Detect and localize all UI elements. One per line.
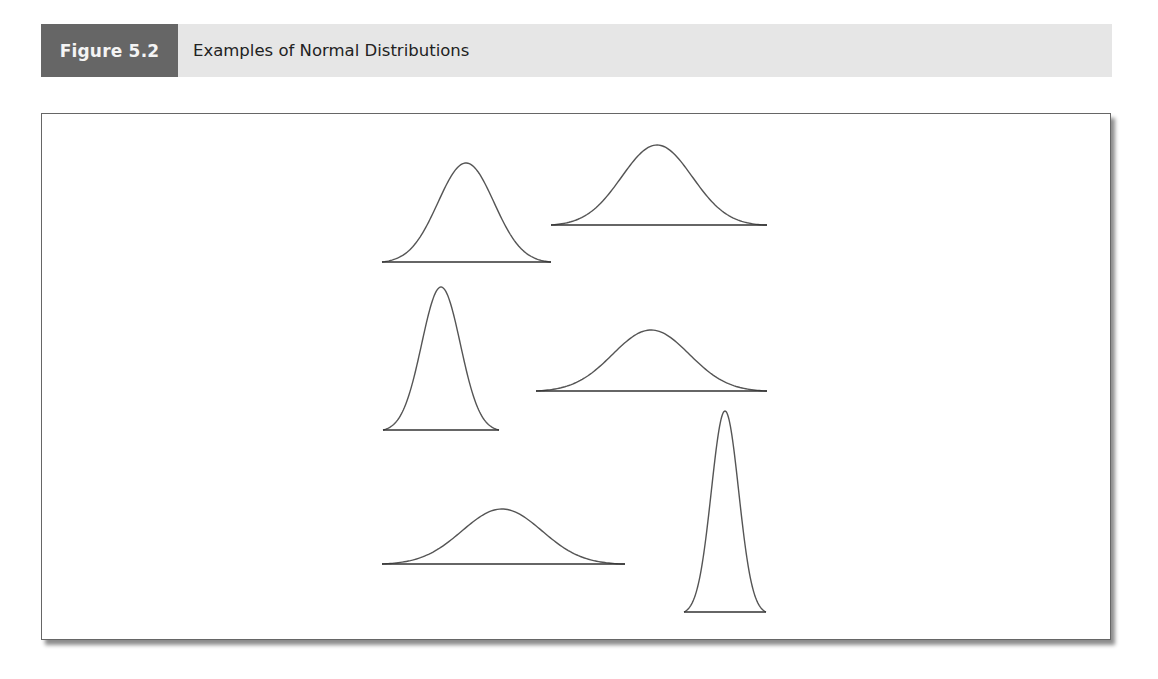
curve-4-line [536,330,767,391]
curve-5-line [382,509,625,564]
normal-curves-plot [0,0,1158,679]
curve-6-line [684,411,766,612]
curve-3-line [383,287,499,430]
curve-1-line [382,163,551,262]
curve-2-line [551,145,767,225]
